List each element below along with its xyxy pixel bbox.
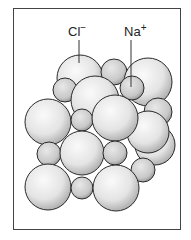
nacl-lattice-diagram: [0, 0, 191, 240]
chloride-label: Cl−: [68, 22, 86, 39]
sodium-ion: [103, 141, 127, 165]
chloride-ion: [93, 165, 139, 211]
sodium-ion: [37, 142, 61, 166]
chloride-ion: [60, 131, 104, 175]
sodium-label: Na+: [124, 22, 146, 39]
sodium-ion: [71, 177, 93, 199]
chloride-ion: [92, 95, 138, 141]
chloride-ion: [25, 99, 71, 145]
sodium-ion: [71, 109, 93, 131]
chloride-ion: [25, 164, 71, 210]
